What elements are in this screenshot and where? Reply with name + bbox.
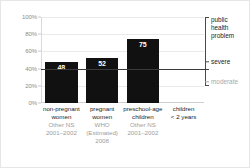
- x-label-name-line1-3: children: [163, 105, 204, 113]
- severity-legend: public health problem severe moderate: [205, 17, 250, 103]
- x-label-name-line2-2: children: [123, 113, 164, 121]
- bar-series: 48 52 75: [41, 17, 204, 103]
- chart-screenshot: 100% 80% 60% 40% 20% 0% 48 52 75: [0, 0, 250, 168]
- bar-value-preschool-age-children: 75: [127, 41, 160, 49]
- x-label-source-line2-1: (Estimated): [82, 129, 123, 137]
- y-tick-label-100: 100%: [22, 14, 37, 20]
- x-axis-labels: non-pregnant women Other NS 2001–2002 pr…: [41, 105, 204, 165]
- bar-slot-preschool-age-children: 75: [123, 17, 164, 103]
- x-label-source-line3-1: 2008: [82, 137, 123, 145]
- bar-slot-non-pregnant-women: 48: [41, 17, 82, 103]
- x-label-name-line1-1: pregnant: [82, 105, 123, 113]
- severe-tick: [205, 61, 209, 62]
- x-label-name-line2-1: women: [82, 113, 123, 121]
- y-tick-label-60: 60%: [25, 48, 37, 54]
- moderate-tick: [205, 81, 209, 82]
- x-label-source-line1-0: Other NS: [41, 121, 82, 129]
- y-tick-label-0: 0%: [29, 100, 37, 106]
- plot-area: 100% 80% 60% 40% 20% 0% 48 52 75: [41, 17, 204, 103]
- x-label-source-line1-2: Other NS: [123, 121, 164, 129]
- x-label-children-under-2: children < 2 years: [163, 105, 204, 121]
- y-tick-label-40: 40%: [25, 66, 37, 72]
- x-label-source-line2-2: 2001–2002: [123, 129, 164, 137]
- x-label-name-line1-0: non-pregnant: [41, 105, 82, 113]
- bar-slot-pregnant-women: 52: [82, 17, 123, 103]
- bracket-label-line3: problem: [211, 32, 234, 40]
- x-label-name-line2-3: < 2 years: [163, 113, 204, 121]
- y-tick-label-80: 80%: [25, 31, 37, 37]
- public-health-problem-bracket: [205, 17, 209, 86]
- x-label-source-line2-0: 2001–2002: [41, 129, 82, 137]
- bar-preschool-age-children[interactable]: 75: [127, 39, 160, 104]
- x-label-preschool-age-children: preschool-age children Other NS 2001–200…: [123, 105, 164, 137]
- x-label-source-line1-1: WHO: [82, 121, 123, 129]
- severe-label: severe: [211, 58, 230, 66]
- threshold-line-40-percent: [41, 69, 209, 71]
- bar-slot-children-under-2: [163, 17, 204, 103]
- bar-pregnant-women[interactable]: 52: [86, 58, 119, 103]
- x-label-name-line2-0: women: [41, 113, 82, 121]
- y-tick-label-20: 20%: [25, 83, 37, 89]
- bracket-label-line1: public: [211, 16, 234, 24]
- x-label-non-pregnant-women: non-pregnant women Other NS 2001–2002: [41, 105, 82, 137]
- bar-value-pregnant-women: 52: [86, 60, 119, 68]
- moderate-label: moderate: [211, 78, 238, 86]
- bracket-label-line2: health: [211, 24, 234, 32]
- public-health-problem-label: public health problem: [211, 16, 234, 40]
- x-label-pregnant-women: pregnant women WHO (Estimated) 2008: [82, 105, 123, 145]
- x-label-name-line1-2: preschool-age: [123, 105, 164, 113]
